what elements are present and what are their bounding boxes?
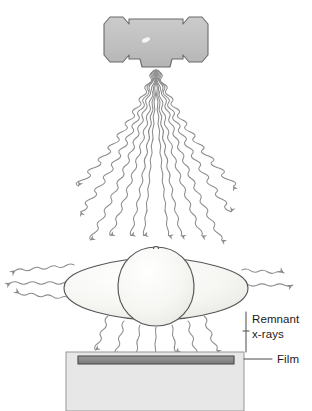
remnant-xrays-label-line1: Remnant — [252, 313, 300, 325]
patient-nub — [153, 246, 158, 249]
scatter-rays-right — [240, 269, 293, 286]
primary-x-ray-beam — [76, 70, 236, 240]
diagram-canvas: Remnant x-rays Film — [0, 0, 312, 411]
film-strip — [78, 356, 234, 364]
x-ray-tube-housing — [104, 17, 208, 67]
remnant-xrays-label-line2: x-rays — [252, 328, 284, 340]
patient-abdomen — [118, 247, 194, 326]
film-cassette — [66, 352, 244, 411]
radiography-diagram: Remnant x-rays Film — [0, 0, 312, 411]
diagram-labels: Remnant x-rays Film — [252, 313, 300, 365]
film-label: Film — [277, 353, 299, 365]
patient-body — [64, 246, 248, 326]
